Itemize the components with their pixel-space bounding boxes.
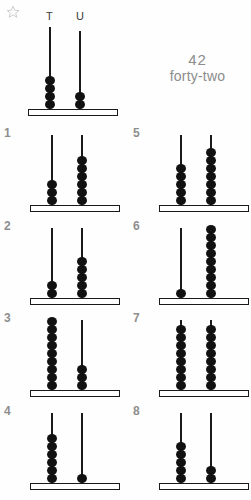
abacus-example [28, 22, 118, 116]
bead[interactable] [77, 196, 87, 205]
rod-post [180, 228, 182, 298]
rod-post [81, 413, 83, 483]
abacus-base [159, 298, 249, 305]
bead-stack-units [77, 157, 87, 205]
abacus-answer-area[interactable] [159, 317, 249, 397]
problem-number: 1 [4, 126, 11, 140]
problem-number: 6 [133, 219, 140, 233]
problem-number: 4 [4, 404, 11, 418]
star-icon [6, 5, 20, 19]
problem-number: 3 [4, 311, 11, 325]
bead-stack-units [77, 366, 87, 390]
problem-2[interactable]: 2 [2, 219, 120, 307]
bead-stack-tens [176, 165, 186, 205]
abacus-answer-area[interactable] [159, 132, 249, 212]
problem-number: 8 [133, 404, 140, 418]
bead-stack-tens [176, 443, 186, 483]
problem-8[interactable]: 8 [131, 404, 249, 492]
bead-stack-units [75, 93, 85, 109]
bead-stack-tens [47, 282, 57, 298]
bead[interactable] [75, 100, 85, 109]
abacus-answer-area[interactable] [30, 317, 120, 397]
abacus-answer-area[interactable] [159, 410, 249, 490]
problem-7[interactable]: 7 [131, 311, 249, 399]
bead[interactable] [176, 289, 186, 298]
bead[interactable] [47, 289, 57, 298]
bead[interactable] [47, 474, 57, 483]
abacus-answer-area[interactable] [159, 225, 249, 305]
bead-stack-tens [176, 290, 186, 298]
bead-stack-units [206, 226, 216, 298]
problem-number: 7 [133, 311, 140, 325]
abacus-answer-area[interactable] [30, 410, 120, 490]
abacus-answer-area[interactable] [30, 225, 120, 305]
abacus-base [30, 483, 120, 490]
bead-stack-units [206, 326, 216, 390]
bead[interactable] [206, 474, 216, 483]
bead[interactable] [47, 381, 57, 390]
bead[interactable] [45, 100, 55, 109]
abacus-base [159, 205, 249, 212]
abacus-base [30, 205, 120, 212]
example-answer-word: forty-two [150, 68, 245, 85]
bead[interactable] [206, 381, 216, 390]
bead-stack-tens [45, 77, 55, 109]
bead[interactable] [77, 289, 87, 298]
abacus-base [159, 483, 249, 490]
bead[interactable] [176, 474, 186, 483]
problem-3[interactable]: 3 [2, 311, 120, 399]
tens-column-label: T [46, 10, 53, 22]
abacus-answer-area[interactable] [30, 132, 120, 212]
abacus-base [159, 390, 249, 397]
problem-5[interactable]: 5 [131, 126, 249, 214]
bead[interactable] [206, 289, 216, 298]
abacus-base [30, 298, 120, 305]
bead-stack-tens [47, 318, 57, 390]
example-answer: 42 forty-two [150, 52, 245, 85]
bead-stack-tens [47, 435, 57, 483]
bead[interactable] [176, 381, 186, 390]
problem-4[interactable]: 4 [2, 404, 120, 492]
bead[interactable] [206, 196, 216, 205]
bead-stack-tens [176, 326, 186, 390]
bead-stack-units [206, 149, 216, 205]
example-answer-number: 42 [150, 52, 245, 68]
abacus-base [28, 109, 118, 116]
bead-stack-units [77, 475, 87, 483]
worksheet-page: T U 42 forty-two 1 [0, 0, 251, 500]
bead[interactable] [47, 196, 57, 205]
bead[interactable] [77, 381, 87, 390]
problem-1[interactable]: 1 [2, 126, 120, 214]
bead-stack-units [77, 258, 87, 298]
bead-stack-tens [47, 181, 57, 205]
example-abacus-group: T U [28, 10, 118, 118]
problem-number: 2 [4, 219, 11, 233]
problem-number: 5 [133, 126, 140, 140]
abacus-base [30, 390, 120, 397]
bead[interactable] [77, 474, 87, 483]
problem-6[interactable]: 6 [131, 219, 249, 307]
bead[interactable] [176, 196, 186, 205]
units-column-label: U [76, 10, 84, 22]
bead-stack-units [206, 467, 216, 483]
